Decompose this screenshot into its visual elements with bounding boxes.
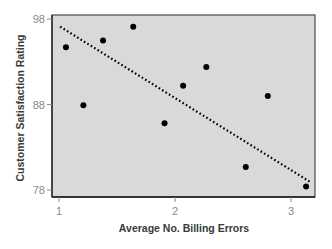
x-tick-label: 3 [288,205,294,217]
y-tick-label: 78 [33,184,45,196]
data-point [100,37,106,43]
x-axis-title: Average No. Billing Errors [119,222,249,234]
y-axis-title: Customer Satisfaction Rating [14,34,26,181]
data-point [162,120,168,126]
x-tick-label: 2 [172,205,178,217]
y-tick-label: 88 [33,99,45,111]
data-point [180,83,186,89]
data-point [203,64,209,70]
data-point [80,102,86,108]
data-point [130,24,136,30]
y-tick-label: 98 [33,13,45,25]
data-point [243,164,249,170]
x-axis-ticks: 123 [56,197,294,217]
plot-area [52,15,315,197]
x-tick-label: 1 [56,205,62,217]
data-point [303,184,309,190]
y-axis-ticks: 788898 [33,13,52,196]
scatter-chart: 788898 123 Average No. Billing Errors Cu… [0,0,332,249]
data-point [265,93,271,99]
data-point [63,44,69,50]
